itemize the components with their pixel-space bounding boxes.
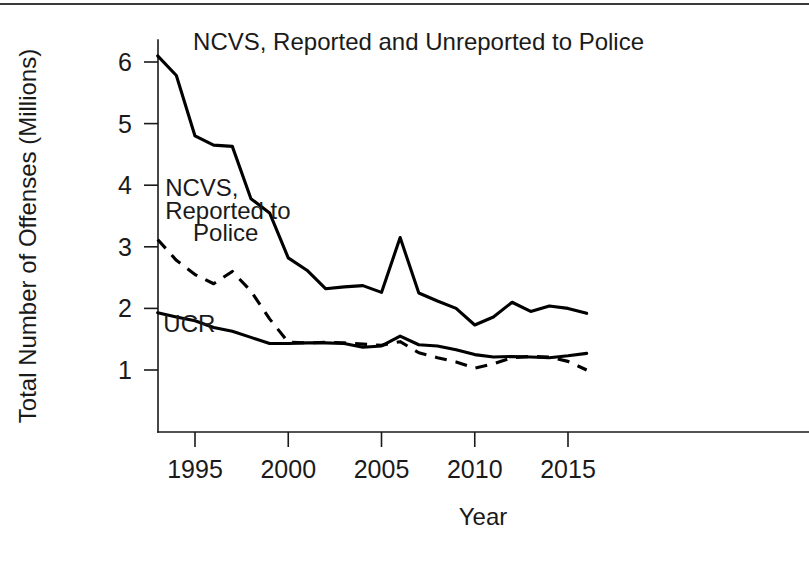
x-tick-label-2015: 2015 <box>540 455 596 483</box>
line-chart: 123456 19952000200520102015 NCVS, Report… <box>0 0 809 568</box>
y-axis-ticks <box>144 62 158 370</box>
ncvs-total-label: NCVS, Reported and Unreported to Police <box>193 28 644 55</box>
y-tick-label-6: 6 <box>118 48 132 76</box>
ncvs-reported-label-line3: Police <box>193 219 258 246</box>
x-tick-label-2010: 2010 <box>447 455 503 483</box>
figure-container: 123456 19952000200520102015 NCVS, Report… <box>0 0 809 568</box>
y-axis-tick-labels: 123456 <box>118 48 132 384</box>
series-line-ucr <box>158 313 587 358</box>
x-axis-ticks <box>195 432 568 447</box>
x-tick-label-2000: 2000 <box>260 455 316 483</box>
ucr-label: UCR <box>163 310 215 337</box>
y-tick-label-2: 2 <box>118 294 132 322</box>
y-tick-label-1: 1 <box>118 356 132 384</box>
x-axis-tick-labels: 19952000200520102015 <box>167 455 596 483</box>
y-tick-label-3: 3 <box>118 233 132 261</box>
series-line-ncvs-reported-to-police <box>158 239 587 370</box>
x-axis-title: Year <box>459 503 508 530</box>
y-axis-title: Total Number of Offenses (Millions) <box>14 49 41 423</box>
x-tick-label-2005: 2005 <box>354 455 410 483</box>
y-tick-label-4: 4 <box>118 171 132 199</box>
chart-annotations: NCVS, Reported and Unreported to PoliceN… <box>163 28 644 337</box>
x-tick-label-1995: 1995 <box>167 455 223 483</box>
y-tick-label-5: 5 <box>118 110 132 138</box>
